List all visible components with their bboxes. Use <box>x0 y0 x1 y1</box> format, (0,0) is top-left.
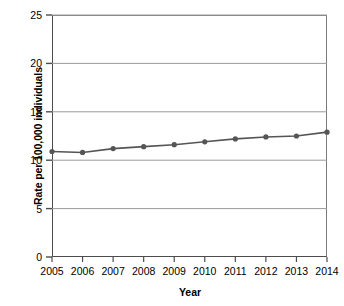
y-axis-tick-label: 25 <box>30 9 42 21</box>
plot-area <box>52 15 327 257</box>
x-axis-tick-label: 2014 <box>307 266 344 277</box>
y-axis-tick-label: 0 <box>36 251 42 263</box>
x-axis-title: Year <box>52 286 328 298</box>
y-axis-title: Rate per 100,000 individuals <box>32 36 44 236</box>
line-chart: Rate per 100,000 individuals 0510152025 … <box>0 0 344 306</box>
x-axis-ticks <box>52 257 327 262</box>
